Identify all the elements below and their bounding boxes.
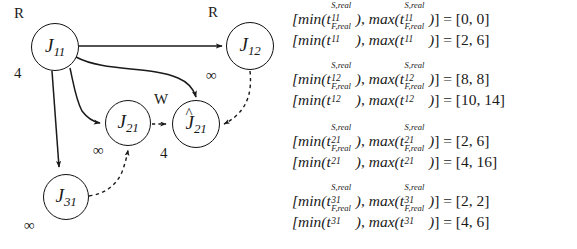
node-j11[interactable]: J11 <box>31 23 79 71</box>
equation-line: [min(tF,real31), max(tF,real31)] = [4, 6… <box>292 211 577 232</box>
figure-root: J11 R 4 J12 R ∞ J21 ∞ ^J21 W 4 <box>0 0 577 249</box>
t-indices: F,real12 <box>404 90 429 106</box>
max-token: max <box>369 132 395 149</box>
interval-value: [10, 14] <box>456 91 505 108</box>
hat-accent-icon: ^ <box>186 106 193 121</box>
node-j11-bottom-tag: 4 <box>14 66 22 81</box>
node-j21-hat-bottom-tag: 4 <box>160 146 168 161</box>
min-token: min <box>298 192 321 209</box>
t-indices: F,real31 <box>404 212 429 228</box>
equals: = <box>439 213 456 230</box>
max-token: max <box>369 192 395 209</box>
node-j21-bottom-tag: ∞ <box>93 143 104 158</box>
equation-group-j21: [min(tS,real21), max(tS,real21)] = [2, 6… <box>292 130 577 172</box>
comma: , <box>361 10 369 27</box>
t-indices: F,real11 <box>404 30 429 46</box>
node-j11-top-tag: R <box>14 6 24 21</box>
equals: = <box>439 153 456 170</box>
node-j31-label: J31 <box>55 186 76 208</box>
max-token: max <box>369 31 395 48</box>
interval-value: [2, 6] <box>456 132 490 149</box>
max-token: max <box>369 10 395 27</box>
node-j21-hat[interactable]: ^J21 <box>172 100 220 148</box>
equals: = <box>439 31 456 48</box>
node-j21[interactable]: J21 <box>105 100 151 146</box>
comma: , <box>361 213 369 230</box>
comma: , <box>361 132 369 149</box>
equation-line: [min(tF,real21), max(tF,real21)] = [4, 1… <box>292 151 577 172</box>
equation-line: [min(tF,real11), max(tF,real11)] = [2, 6… <box>292 29 577 50</box>
equation-group-j11: [min(tS,real11), max(tS,real11)] = [0, 0… <box>292 8 577 50</box>
equals: = <box>439 70 456 87</box>
edge-j11-to-j31 <box>52 71 59 167</box>
min-token: min <box>298 10 321 27</box>
node-j12-label: J12 <box>239 35 260 57</box>
node-j11-label: J11 <box>45 36 65 58</box>
edge-j11-to-j21 <box>70 68 100 123</box>
min-token: min <box>298 31 321 48</box>
node-j31[interactable]: J31 <box>43 174 89 220</box>
interval-value: [8, 8] <box>456 70 490 87</box>
max-token: max <box>369 70 395 87</box>
interval-value: [2, 6] <box>456 31 490 48</box>
t-indices: F,real31 <box>331 212 356 228</box>
t-indices: F,real21 <box>404 152 429 168</box>
node-j21-hat-label: ^J21 <box>185 113 206 135</box>
edge-j12-to-j21hat <box>224 71 251 124</box>
max-token: max <box>369 213 395 230</box>
equals: = <box>439 132 456 149</box>
node-j21-hat-top-tag: W <box>154 92 168 107</box>
comma: , <box>361 31 369 48</box>
comma: , <box>361 192 369 209</box>
equation-group-j31: [min(tS,real31), max(tS,real31)] = [2, 2… <box>292 190 577 232</box>
equations-pane: [min(tS,real11), max(tS,real11)] = [0, 0… <box>292 0 577 249</box>
t-indices: F,real11 <box>331 30 356 46</box>
min-token: min <box>298 70 321 87</box>
t-indices: F,real21 <box>331 152 356 168</box>
comma: , <box>361 91 369 108</box>
node-j12-bottom-tag: ∞ <box>206 68 217 83</box>
node-j21-label: J21 <box>117 112 138 134</box>
min-token: min <box>298 132 321 149</box>
node-j31-bottom-tag: ∞ <box>24 218 35 233</box>
interval-value: [2, 2] <box>456 192 490 209</box>
equals: = <box>439 10 456 27</box>
interval-value: [4, 6] <box>456 213 490 230</box>
edge-j11-to-j21hat <box>76 57 196 97</box>
graph-pane: J11 R 4 J12 R ∞ J21 ∞ ^J21 W 4 <box>0 0 290 249</box>
interval-value: [4, 16] <box>456 153 497 170</box>
node-j12[interactable]: J12 <box>226 22 274 70</box>
interval-value: [0, 0] <box>456 10 490 27</box>
max-token: max <box>369 153 395 170</box>
comma: , <box>361 153 369 170</box>
max-token: max <box>369 91 395 108</box>
comma: , <box>361 70 369 87</box>
equation-group-j12: [min(tS,real12), max(tS,real12)] = [8, 8… <box>292 68 577 110</box>
node-j12-top-tag: R <box>208 5 218 20</box>
min-token: min <box>298 91 321 108</box>
t-indices: F,real12 <box>331 90 356 106</box>
min-token: min <box>298 213 321 230</box>
equals: = <box>439 192 456 209</box>
equation-line: [min(tF,real12), max(tF,real12)] = [10, … <box>292 89 577 110</box>
min-token: min <box>298 153 321 170</box>
equals: = <box>439 91 456 108</box>
